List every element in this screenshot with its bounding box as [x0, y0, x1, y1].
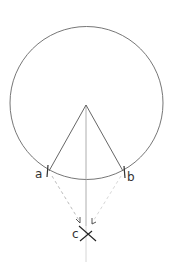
- circle: [10, 27, 163, 180]
- construction-diagram: a b c: [0, 0, 173, 269]
- tick-a: [47, 165, 48, 177]
- arrowhead-b-icon: [92, 218, 96, 224]
- cross-c-1: [79, 226, 96, 241]
- dashed-arrow-a: [52, 176, 80, 222]
- tick-b: [124, 166, 125, 178]
- arrowhead-a-icon: [76, 217, 80, 223]
- label-b: b: [127, 170, 135, 184]
- label-a: a: [35, 167, 42, 181]
- side-to-b: [86, 105, 123, 171]
- side-to-a: [49, 105, 86, 171]
- label-c: c: [72, 227, 79, 241]
- dashed-arrow-b: [92, 176, 121, 223]
